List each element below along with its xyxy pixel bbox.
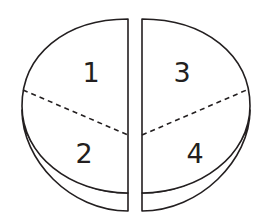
split-tablet-diagram: 1 2 3 4: [0, 0, 266, 222]
quarter-2-label: 2: [75, 138, 92, 169]
quarter-3-label: 3: [173, 57, 190, 88]
right-tablet-half: 3 4: [142, 19, 250, 211]
quarter-1-label: 1: [82, 57, 99, 88]
quarter-4-label: 4: [186, 138, 203, 169]
left-tablet-half: 1 2: [22, 19, 128, 211]
